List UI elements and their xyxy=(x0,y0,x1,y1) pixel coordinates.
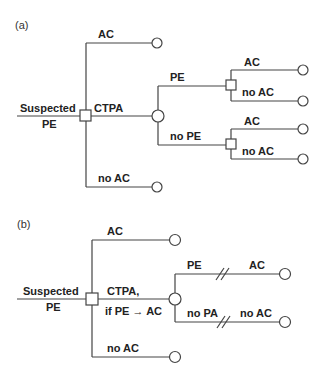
pe-ac-label: AC xyxy=(249,259,265,271)
branch-ctpa-label: CTPA xyxy=(94,102,123,114)
root-label-2: PE xyxy=(46,301,61,313)
terminal-node xyxy=(298,65,308,75)
terminal-node xyxy=(280,269,291,280)
decision-node xyxy=(226,80,236,90)
pe-label: PE xyxy=(170,71,185,83)
branch-noac-label: no AC xyxy=(98,172,130,184)
pe-noac-label: no AC xyxy=(242,86,274,98)
nopa-label: no PA xyxy=(187,307,218,319)
chance-node xyxy=(152,110,164,122)
terminal-node xyxy=(298,124,308,134)
terminal-node xyxy=(298,96,308,106)
nope-noac-label: no AC xyxy=(242,145,274,157)
terminal-node xyxy=(152,182,162,192)
branch-ctpa-sub-label: if PE → AC xyxy=(105,305,162,317)
decision-node xyxy=(86,293,98,305)
panel-a: (a) Suspected PE AC no AC CTPA PE no PE … xyxy=(15,19,308,192)
branch-ctpa-label: CTPA, xyxy=(107,285,139,297)
pe-ac-label: AC xyxy=(244,56,260,68)
nope-label: no PE xyxy=(170,130,201,142)
terminal-node xyxy=(170,352,181,363)
chance-node xyxy=(169,293,181,305)
root-label: Suspected xyxy=(20,102,76,114)
terminal-node xyxy=(298,154,308,164)
pe-label: PE xyxy=(187,259,202,271)
decision-node xyxy=(80,110,91,121)
branch-ac-label: AC xyxy=(107,225,123,237)
root-label-2: PE xyxy=(42,118,57,130)
decision-tree-figure: (a) Suspected PE AC no AC CTPA PE no PE … xyxy=(0,0,323,366)
nopa-noac-label: no AC xyxy=(240,307,272,319)
root-label: Suspected xyxy=(23,285,79,297)
branch-noac-label: no AC xyxy=(107,342,139,354)
terminal-node xyxy=(170,235,181,246)
terminal-node xyxy=(152,38,162,48)
panel-b-label: (b) xyxy=(17,218,30,230)
terminal-node xyxy=(280,317,291,328)
branch-ac-label: AC xyxy=(98,28,114,40)
nope-ac-label: AC xyxy=(244,115,260,127)
panel-b: (b) Suspected PE AC no AC CTPA, if PE → … xyxy=(17,218,291,363)
panel-a-label: (a) xyxy=(15,19,28,31)
decision-node xyxy=(226,139,236,149)
